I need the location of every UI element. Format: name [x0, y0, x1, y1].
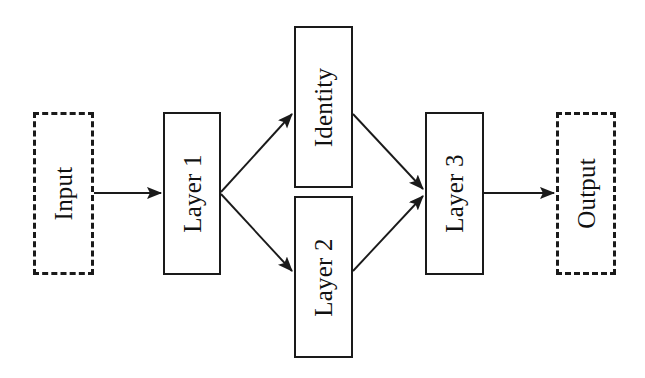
node-identity-label: Identity	[311, 67, 336, 146]
node-identity[interactable]: Identity	[294, 26, 353, 188]
edge-layer1-to-identity	[221, 114, 292, 192]
node-layer-1[interactable]: Layer 1	[163, 112, 221, 275]
diagram-canvas: Input Layer 1 Identity Layer 2 Layer 3 O…	[0, 0, 645, 378]
node-output-label: Output	[574, 158, 599, 229]
node-layer-2-label: Layer 2	[311, 238, 336, 316]
node-input[interactable]: Input	[33, 112, 94, 275]
edge-layer1-to-layer2	[221, 194, 292, 271]
node-input-label: Input	[51, 167, 76, 221]
node-layer-3[interactable]: Layer 3	[425, 112, 484, 275]
edge-layer2-to-layer3	[353, 196, 423, 271]
node-layer-1-label: Layer 1	[180, 154, 205, 232]
edge-identity-to-layer3	[353, 114, 423, 189]
node-layer-3-label: Layer 3	[442, 154, 467, 232]
node-layer-2[interactable]: Layer 2	[294, 196, 353, 358]
node-output[interactable]: Output	[556, 112, 616, 275]
